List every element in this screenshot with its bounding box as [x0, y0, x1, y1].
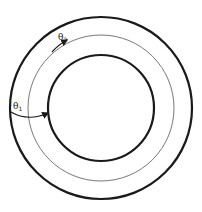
diagram-canvas: θ1 θ2 [0, 0, 202, 212]
concentric-circles-diagram: θ1 θ2 [0, 0, 202, 212]
theta2-label: θ2 [58, 32, 67, 43]
middle-circle [28, 35, 174, 181]
outer-circle [10, 17, 192, 199]
theta1-label: θ1 [13, 101, 22, 112]
theta1-arrow [11, 112, 48, 117]
inner-circle [48, 55, 154, 161]
